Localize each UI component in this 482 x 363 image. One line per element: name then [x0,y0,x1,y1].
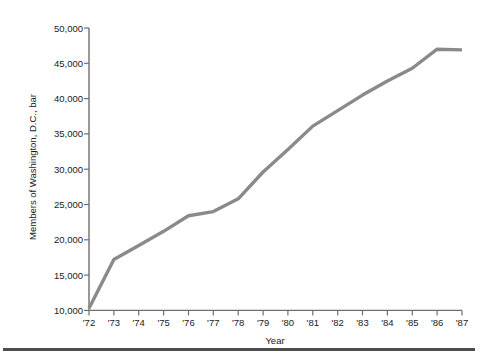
x-tick-label: '81 [307,317,319,328]
x-tick-label: '74 [133,317,145,328]
x-tick-label: '77 [207,317,219,328]
y-tick-labels: 50,000 45,000 40,000 35,000 30,000 25,00… [54,23,83,316]
x-tick-label: '73 [108,317,120,328]
x-tick-label: '87 [456,317,468,328]
x-tick-label: '84 [381,317,393,328]
x-tick-label: '76 [182,317,194,328]
y-tick-marks [84,28,89,310]
x-tick-label: '83 [356,317,368,328]
y-tick-label: 40,000 [54,93,83,104]
x-tick-label: '80 [282,317,294,328]
x-axis-title: Year [265,335,284,346]
x-tick-labels: '72 '73 '74 '75 '76 '77 '78 '79 '80 '81 … [83,317,468,328]
data-series-line [89,49,462,308]
y-tick-label: 10,000 [54,305,83,316]
footer-divider [3,348,475,351]
chart-figure: Members of Washington, D.C., bar 50,000 … [0,0,482,363]
x-tick-label: '82 [332,317,344,328]
y-tick-label: 15,000 [54,270,83,281]
y-tick-label: 35,000 [54,128,83,139]
y-tick-label: 30,000 [54,164,83,175]
line-chart-svg: Members of Washington, D.C., bar 50,000 … [0,0,482,363]
x-tick-marks [89,310,462,315]
x-tick-label: '75 [157,317,169,328]
y-tick-label: 20,000 [54,234,83,245]
x-tick-label: '85 [406,317,418,328]
x-tick-label: '79 [257,317,269,328]
y-tick-label: 25,000 [54,199,83,210]
x-tick-label: '72 [83,317,95,328]
x-tick-label: '86 [431,317,443,328]
y-tick-label: 50,000 [54,23,83,34]
y-tick-label: 45,000 [54,58,83,69]
x-tick-label: '78 [232,317,244,328]
y-axis-title: Members of Washington, D.C., bar [27,94,38,240]
